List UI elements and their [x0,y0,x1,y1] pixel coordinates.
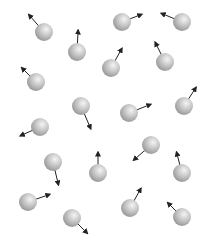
molecule-sphere [35,23,53,41]
molecule-sphere [173,13,191,31]
molecule-sphere [63,209,81,227]
molecule-sphere [142,136,160,154]
molecule-sphere [121,199,139,217]
molecule-sphere [68,43,86,61]
molecule-sphere [31,118,49,136]
molecule-sphere [175,97,193,115]
molecule-sphere [19,193,37,211]
molecule-sphere [173,208,191,226]
molecule-sphere [72,97,90,115]
molecule-sphere [156,53,174,71]
molecule-sphere [27,73,45,91]
molecule-sphere [173,164,191,182]
molecule-sphere [102,59,120,77]
molecule-sphere [44,153,62,171]
molecule-sphere [120,104,138,122]
velocity-arrow-icon [77,30,78,44]
molecule-sphere [89,164,107,182]
gas-molecules-diagram [0,0,207,248]
molecule-sphere [113,13,131,31]
